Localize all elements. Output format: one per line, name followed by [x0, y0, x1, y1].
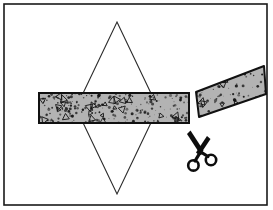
- illustration-canvas: Line-art illustration: a tall rhombus (d…: [0, 0, 273, 210]
- figure-svg: [0, 0, 273, 210]
- textured-band-left-piece: [39, 92, 190, 125]
